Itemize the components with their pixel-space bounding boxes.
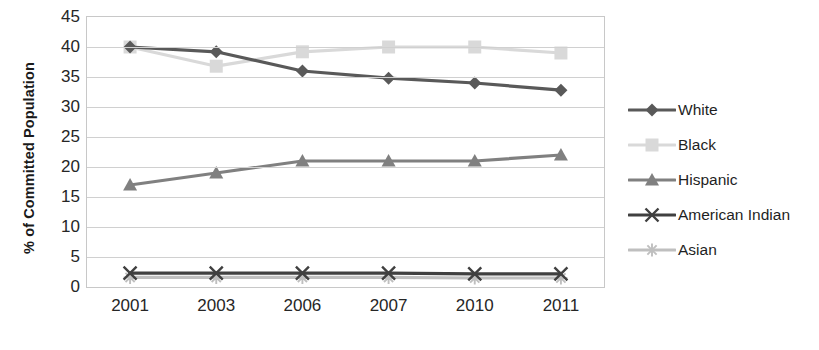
legend-key-diamond-icon xyxy=(628,99,676,121)
legend-key-cross-icon xyxy=(628,204,676,226)
legend-label: American Indian xyxy=(676,206,790,224)
x-axis-tick-label: 2006 xyxy=(257,296,347,316)
x-axis-tick-label: 2010 xyxy=(430,296,520,316)
data-point-diamond xyxy=(296,65,309,78)
y-axis-tick-label: 15 xyxy=(40,187,80,207)
gridline xyxy=(87,197,604,198)
legend-key-square-icon xyxy=(628,134,676,156)
y-axis-tick-label: 40 xyxy=(40,37,80,57)
legend-label: White xyxy=(676,101,718,119)
legend-label: Hispanic xyxy=(676,171,737,189)
legend-label: Black xyxy=(676,136,716,154)
legend-key-triangle-icon xyxy=(628,169,676,191)
data-point-diamond xyxy=(382,72,395,85)
data-point-diamond xyxy=(646,103,659,116)
plot-area xyxy=(86,16,605,288)
data-point-square xyxy=(554,47,567,60)
data-point-star xyxy=(646,243,659,256)
gridline xyxy=(87,77,604,78)
x-axis-tick-label: 2001 xyxy=(85,296,175,316)
y-axis-title: % of Committed Population xyxy=(21,33,37,283)
gridline xyxy=(87,137,604,138)
series-hispanic xyxy=(123,148,568,191)
y-axis-tick-label: 45 xyxy=(40,7,80,27)
legend-item-black[interactable]: Black xyxy=(628,127,819,162)
data-point-diamond xyxy=(554,84,567,97)
y-axis-tick-label: 30 xyxy=(40,97,80,117)
legend-label: Asian xyxy=(676,241,717,259)
y-axis-tick-label: 20 xyxy=(40,157,80,177)
y-axis-tick-label: 0 xyxy=(40,277,80,297)
y-axis-tick-label: 10 xyxy=(40,217,80,237)
y-axis-tick-labels: 454035302520151050 xyxy=(36,0,80,350)
legend-key-star-icon xyxy=(628,239,676,261)
line-chart: % of Committed Population 45403530252015… xyxy=(0,0,819,350)
y-axis-tick-label: 5 xyxy=(40,247,80,267)
y-axis-tick-label: 35 xyxy=(40,67,80,87)
legend-item-hispanic[interactable]: Hispanic xyxy=(628,162,819,197)
data-point-square xyxy=(210,60,223,73)
x-axis-tick-label: 2011 xyxy=(516,296,606,316)
legend-item-asian[interactable]: Asian xyxy=(628,232,819,267)
legend-item-white[interactable]: White xyxy=(628,92,819,127)
gridline xyxy=(87,227,604,228)
x-axis-tick-label: 2003 xyxy=(171,296,261,316)
y-axis-tick-label: 25 xyxy=(40,127,80,147)
legend-item-american-indian[interactable]: American Indian xyxy=(628,197,819,232)
gridline xyxy=(87,47,604,48)
series-layer xyxy=(87,17,604,287)
chart-legend: WhiteBlackHispanicAmerican IndianAsian xyxy=(628,92,819,267)
data-point-diamond xyxy=(468,77,481,90)
gridline xyxy=(87,167,604,168)
data-point-square xyxy=(646,138,659,151)
gridline xyxy=(87,107,604,108)
x-axis-tick-label: 2007 xyxy=(344,296,434,316)
gridline xyxy=(87,257,604,258)
series-black xyxy=(124,41,568,73)
